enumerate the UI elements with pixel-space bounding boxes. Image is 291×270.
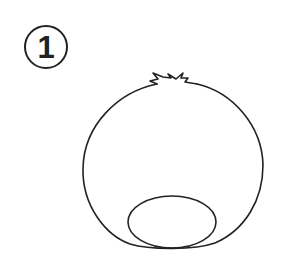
tuft-icon: [150, 73, 197, 84]
drawing-step-canvas: 1: [0, 0, 291, 270]
bottom-ellipse: [128, 196, 216, 248]
body-outline: [83, 84, 263, 248]
drawing-outline: [0, 0, 291, 270]
